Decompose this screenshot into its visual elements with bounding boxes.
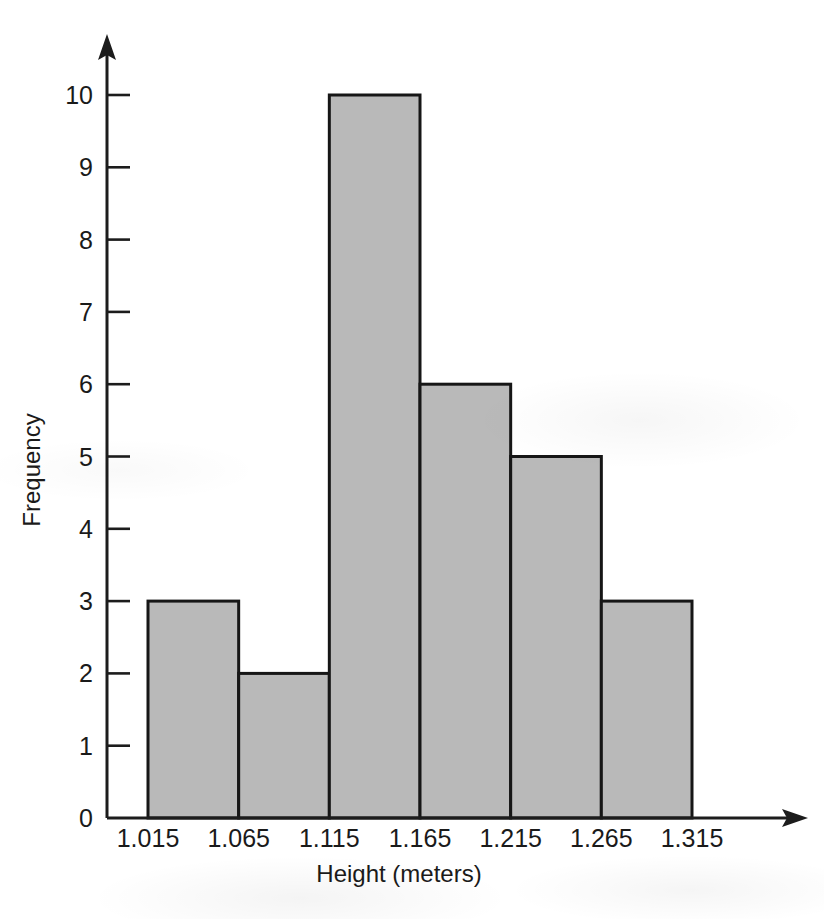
- x-axis-tick-label: 1.315: [661, 824, 724, 852]
- y-axis-tick-label: 5: [79, 443, 93, 471]
- histogram-bar: [601, 601, 692, 818]
- y-axis-tick-label: 0: [79, 804, 93, 832]
- histogram-bar: [148, 601, 239, 818]
- y-axis-ticks: 012345678910: [65, 81, 130, 832]
- y-axis-tick-label: 4: [79, 515, 93, 543]
- y-axis-tick-label: 9: [79, 153, 93, 181]
- y-axis-tick-label: 6: [79, 370, 93, 398]
- histogram-bar: [329, 95, 420, 818]
- x-axis-tick-label: 1.215: [479, 824, 542, 852]
- y-axis-tick-label: 7: [79, 298, 93, 326]
- y-axis-tick-label: 10: [65, 81, 93, 109]
- y-axis-tick-label: 1: [79, 732, 93, 760]
- x-axis-tick-label: 1.265: [570, 824, 633, 852]
- histogram-bar: [511, 457, 602, 819]
- y-axis-tick-label: 8: [79, 226, 93, 254]
- x-axis-tick-label: 1.115: [299, 824, 360, 852]
- x-axis-title: Height (meters): [316, 860, 481, 887]
- histogram-figure: 012345678910 1.0151.0651.1151.1651.2151.…: [0, 0, 824, 919]
- y-axis-title: Frequency: [18, 413, 45, 526]
- y-axis-tick-label: 2: [79, 659, 93, 687]
- histogram-bar: [420, 384, 511, 818]
- histogram-bar: [239, 673, 330, 818]
- x-axis-tick-label: 1.065: [207, 824, 270, 852]
- histogram-bars: [148, 95, 692, 818]
- histogram-plot: 012345678910 1.0151.0651.1151.1651.2151.…: [0, 0, 824, 919]
- x-axis-tick-label: 1.015: [117, 824, 180, 852]
- y-axis-tick-label: 3: [79, 587, 93, 615]
- x-axis-tick-label: 1.165: [389, 824, 452, 852]
- x-axis-tick-labels: 1.0151.0651.1151.1651.2151.2651.315: [117, 824, 724, 852]
